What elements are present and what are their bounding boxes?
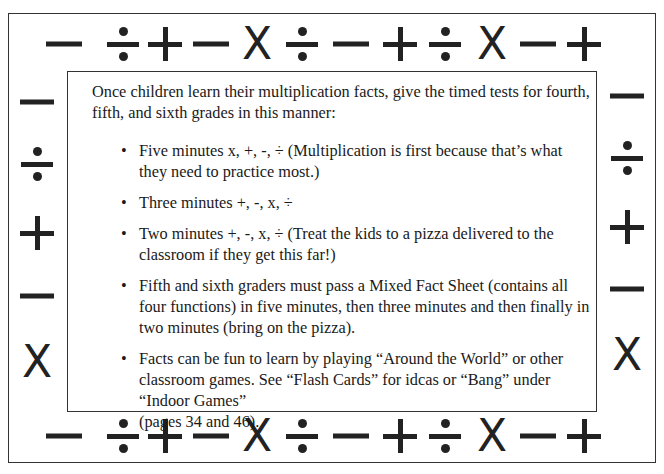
bullet-icon: • [121,348,127,369]
timed-test-list: •Five minutes x, +, -, ÷ (Multiplication… [92,140,592,432]
list-item-mixed-fact-sheet: •Fifth and sixth graders must pass a Mix… [117,275,592,338]
instructions-text: Once children learn their multiplication… [92,81,592,442]
intro-paragraph: Once children learn their multiplication… [92,81,592,123]
bullet-icon: • [121,140,127,161]
list-item-two-minutes: •Two minutes +, -, x, ÷ (Treat the kids … [117,223,592,265]
list-item-games: •Facts can be fun to learn by playing “A… [117,348,592,432]
list-item-five-minutes: •Five minutes x, +, -, ÷ (Multiplication… [117,140,592,182]
bullet-icon: • [121,192,127,213]
bullet-icon: • [121,275,127,296]
list-item-three-minutes: •Three minutes +, -, x, ÷ [117,192,592,213]
bullet-icon: • [121,223,127,244]
